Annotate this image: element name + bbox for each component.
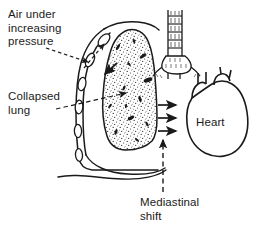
rib-6 [75, 148, 83, 161]
trachea [168, 10, 182, 56]
label-mediastinal-shift: Mediastinal shift [140, 196, 199, 223]
rib-4 [75, 100, 84, 114]
label-heart: Heart [196, 116, 225, 130]
tension-pneumothorax-figure: Air under increasing pressure Collapsed … [0, 0, 257, 234]
label-air-under-increasing-pressure: Air under increasing pressure [8, 8, 61, 49]
collapsed-lung-mass [103, 29, 157, 150]
heart-outline [187, 67, 248, 156]
rib-5 [74, 124, 82, 137]
pressure-arrow-group [158, 105, 176, 131]
label-collapsed-lung: Collapsed lung [8, 90, 60, 117]
diaphragm-curve [58, 155, 166, 179]
